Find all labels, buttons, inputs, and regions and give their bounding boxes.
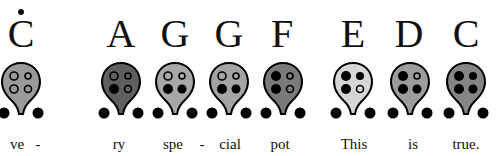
lyric-word: pot <box>250 135 310 153</box>
note-letter-a: A <box>101 14 141 54</box>
thumb-hole-left-icon <box>261 108 272 119</box>
lyric-hyphen: - <box>8 135 68 153</box>
ocarina-body <box>210 63 248 114</box>
thumb-hole-right-icon <box>478 108 489 119</box>
hole-top-left-closed-icon <box>454 71 464 81</box>
hole-bottom-left-closed-icon <box>163 84 173 94</box>
ocarina-body <box>102 63 140 114</box>
thumb-hole-left-icon <box>153 108 164 119</box>
note-letter-e: E <box>333 14 373 54</box>
ocarina-body <box>2 63 40 114</box>
ocarina-body <box>391 63 429 114</box>
lyric-word: is <box>383 135 443 153</box>
ocarina-fingering-c <box>443 60 489 122</box>
hole-bottom-right-closed-icon <box>178 85 187 94</box>
hole-bottom-left-closed-icon <box>109 84 119 94</box>
thumb-hole-left-icon <box>207 108 218 119</box>
thumb-hole-left-icon <box>331 108 342 119</box>
ocarina-fingering-d <box>387 60 433 122</box>
hole-top-left-closed-icon <box>341 71 351 81</box>
ocarina-fingering-e <box>330 60 376 122</box>
hole-top-left-closed-icon <box>398 71 408 81</box>
thumb-hole-left-icon <box>388 108 399 119</box>
octave-dot-icon <box>18 9 24 15</box>
ocarina-fingering-f <box>260 60 306 122</box>
hole-bottom-right-closed-icon <box>232 85 241 94</box>
note-letter-g-1: G <box>155 14 195 54</box>
ocarina-body <box>264 63 302 114</box>
note-letter-c-high: C <box>1 14 41 54</box>
ocarina-body <box>447 63 485 114</box>
hole-top-left-closed-icon <box>271 71 281 81</box>
lyric-syllable: ry <box>89 135 149 153</box>
hole-bottom-left-closed-icon <box>217 84 227 94</box>
note-letter-g-2: G <box>209 14 249 54</box>
thumb-hole-right-icon <box>422 108 433 119</box>
ocarina-body <box>156 63 194 114</box>
ocarina-fingering-a <box>98 60 144 122</box>
note-letter-f: F <box>262 14 302 54</box>
lyric-word: true. <box>436 135 496 153</box>
hole-top-right-closed-icon <box>469 72 477 80</box>
ocarina-fingering-g-2 <box>206 60 252 122</box>
lyric-word: This <box>324 135 384 153</box>
hole-top-right-closed-icon <box>356 72 364 80</box>
thumb-hole-left-icon <box>444 108 455 119</box>
thumb-hole-right-icon <box>241 108 252 119</box>
note-letter-c: C <box>446 14 486 54</box>
ocarina-fingering-c-high <box>0 60 44 122</box>
thumb-hole-right-icon <box>133 108 144 119</box>
hole-bottom-right-closed-icon <box>469 85 478 94</box>
hole-bottom-left-closed-icon <box>454 84 464 94</box>
hole-bottom-left-closed-icon <box>398 84 408 94</box>
thumb-hole-right-icon <box>187 108 198 119</box>
thumb-hole-right-icon <box>33 108 44 119</box>
thumb-hole-right-icon <box>295 108 306 119</box>
hole-bottom-left-closed-icon <box>341 84 351 94</box>
hole-bottom-right-closed-icon <box>413 85 422 94</box>
thumb-hole-left-icon <box>0 108 10 119</box>
thumb-hole-right-icon <box>365 108 376 119</box>
ocarina-fingering-g-1 <box>152 60 198 122</box>
hole-bottom-left-closed-icon <box>271 84 281 94</box>
thumb-hole-left-icon <box>99 108 110 119</box>
note-letter-d: D <box>389 14 429 54</box>
ocarina-body <box>334 63 372 114</box>
